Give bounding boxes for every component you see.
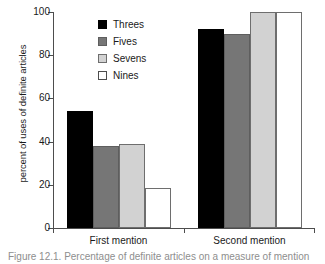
legend-item: Nines — [98, 67, 178, 84]
y-axis-title: percent of uses of definite articles — [17, 14, 28, 214]
legend-swatch-icon — [98, 54, 107, 63]
legend-swatch-icon — [98, 71, 107, 80]
legend-item: Sevens — [98, 50, 178, 67]
x-axis-label: First mention — [90, 234, 148, 247]
bar — [198, 29, 224, 228]
x-tick-mark — [184, 228, 185, 233]
bar — [119, 144, 145, 228]
bar — [250, 12, 276, 228]
legend-swatch-icon — [98, 37, 107, 46]
bar-chart-figure: percent of uses of definite articles 020… — [0, 0, 325, 264]
legend-label: Nines — [113, 70, 139, 82]
y-tick-label: 40 — [39, 135, 50, 148]
legend-item: Threes — [98, 16, 178, 33]
y-tick-label: 80 — [39, 48, 50, 61]
bar — [224, 34, 250, 228]
y-axis-line — [53, 12, 54, 229]
legend: ThreesFivesSevensNines — [98, 16, 178, 84]
legend-label: Sevens — [113, 53, 146, 65]
figure-caption: Figure 12.1. Percentage of definite arti… — [8, 250, 320, 263]
legend-label: Threes — [113, 19, 144, 31]
legend-item: Fives — [98, 33, 178, 50]
bar — [276, 12, 302, 228]
legend-swatch-icon — [98, 20, 107, 29]
y-tick-label: 60 — [39, 91, 50, 104]
y-tick-label: 0 — [44, 221, 50, 234]
x-axis-label: Second mention — [213, 234, 285, 247]
x-tick-mark — [53, 228, 54, 233]
bar — [145, 188, 171, 228]
plot-area: 020406080100 First mentionSecond mention — [53, 12, 315, 228]
y-tick-label: 100 — [33, 5, 50, 18]
bar — [93, 146, 119, 228]
x-tick-mark — [314, 228, 315, 233]
y-tick-label: 20 — [39, 178, 50, 191]
bar — [67, 111, 93, 228]
legend-label: Fives — [113, 36, 137, 48]
